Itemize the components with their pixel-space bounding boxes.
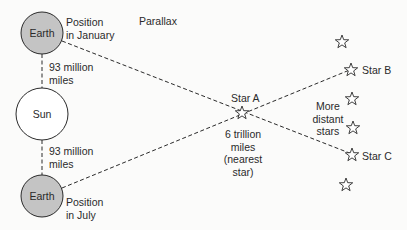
earth-january-label: Earth: [29, 27, 54, 39]
earth-july-caption: Position in July: [66, 196, 103, 221]
star-a-distance: 6 trillion miles (nearest star): [220, 128, 266, 178]
star-a-label: Star A: [231, 92, 260, 105]
star-b-icon: [344, 63, 357, 76]
diagram-title: Parallax: [139, 15, 177, 28]
sun-label: Sun: [33, 108, 52, 120]
distance-label-top: 93 million miles: [49, 61, 93, 86]
star-c-label: Star C: [362, 150, 392, 163]
star-distant-3-icon: [346, 121, 359, 134]
star-a-icon: [235, 106, 248, 119]
star-b-label: Star B: [362, 64, 391, 77]
earth-january-caption: Position in January: [66, 16, 114, 41]
distant-stars-label: More distant stars: [308, 100, 348, 138]
star-distant-4-icon: [339, 178, 352, 191]
earth-july-label: Earth: [29, 190, 54, 202]
star-distant-1-icon: [335, 35, 348, 48]
distance-label-bottom: 93 million miles: [49, 145, 93, 170]
star-c-icon: [345, 148, 358, 161]
